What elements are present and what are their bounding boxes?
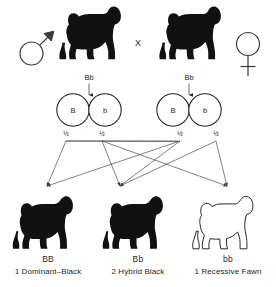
offspring-genotype-1: BB bbox=[42, 254, 54, 264]
gamete-allele-4: b bbox=[203, 106, 207, 115]
offspring-caption-2: 2 Hybrid Black bbox=[112, 267, 166, 276]
cross-operator-label: X bbox=[135, 38, 141, 48]
offspring-caption-1: 1 Dominant–Black bbox=[15, 267, 82, 276]
parent-genotype-male: Bb bbox=[84, 73, 93, 82]
gamete-circle-2: b bbox=[89, 94, 121, 126]
gamete-allele-3: B bbox=[170, 106, 175, 115]
offspring-dog-3 bbox=[193, 196, 253, 248]
offspring-genotype-2: Bb bbox=[133, 254, 144, 264]
fertilization-lines bbox=[47, 141, 227, 186]
gamete-probability-4: ½ bbox=[213, 130, 219, 137]
gamete-probability-3: ½ bbox=[177, 130, 183, 137]
gamete-circle-3: B bbox=[157, 94, 189, 126]
gamete-allele-2: b bbox=[103, 106, 107, 115]
gamete-probability-1: ½ bbox=[63, 130, 69, 137]
gamete-circle-1: B bbox=[57, 94, 89, 126]
gamete-probability-2: ½ bbox=[99, 130, 105, 137]
offspring-genotype-3: bb bbox=[223, 254, 233, 264]
offspring-dog-2 bbox=[103, 196, 163, 248]
male-symbol-icon bbox=[20, 31, 54, 65]
parent-dog-female bbox=[159, 7, 221, 60]
gamete-circle-4: b bbox=[189, 94, 221, 126]
offspring-dog-1 bbox=[13, 196, 73, 248]
offspring-caption-3: 1 Recessive Fawn bbox=[195, 267, 262, 276]
punnett-inheritance-diagram: X Bb Bb B b B b ½ ½ ½ ½ bbox=[0, 0, 276, 287]
gamete-allele-1: B bbox=[70, 106, 75, 115]
parent-dog-male bbox=[59, 7, 121, 60]
female-symbol-icon bbox=[237, 33, 260, 77]
parent-genotype-female: Bb bbox=[184, 73, 193, 82]
